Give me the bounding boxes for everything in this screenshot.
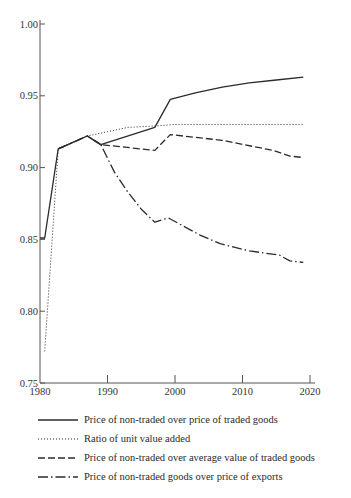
axes: 0.750.800.850.900.951.001980199020002010… [20,19,321,398]
y-tick-label: 0.90 [20,162,38,173]
series-line-solid [40,77,303,238]
legend: Price of non-traded over price of traded… [38,410,315,486]
legend-item-solid: Price of non-traded over price of traded… [38,410,315,429]
x-tick-label: 1980 [30,386,51,397]
legend-label: Price of non-traded over price of traded… [84,414,278,425]
legend-label: Price of non-traded over average value o… [84,452,315,463]
legend-item-dashdot: Price of non-traded goods over price of … [38,467,315,486]
x-tick-label: 2020 [300,386,321,397]
dashed-line-swatch [38,455,80,461]
series-line-dashdot [58,136,303,262]
y-tick-label: 0.80 [20,306,38,317]
dotted-line-swatch [38,436,80,442]
line-chart: 0.750.800.850.900.951.001980199020002010… [0,0,351,400]
dashdot-line-swatch [38,474,80,480]
series-line-dotted [45,125,304,352]
solid-line-swatch [38,417,80,423]
legend-item-dotted: Ratio of unit value added [38,429,315,448]
y-tick-label: 0.95 [20,90,38,101]
x-tick-label: 2000 [165,386,186,397]
legend-label: Ratio of unit value added [84,433,190,444]
legend-label: Price of non-traded goods over price of … [84,471,283,482]
series-line-dashed [58,135,303,158]
legend-item-dashed: Price of non-traded over average value o… [38,448,315,467]
y-tick-label: 0.85 [20,234,38,245]
x-tick-label: 1990 [97,386,118,397]
y-tick-label: 1.00 [20,19,38,30]
series-group [40,77,303,351]
x-tick-label: 2010 [232,386,253,397]
